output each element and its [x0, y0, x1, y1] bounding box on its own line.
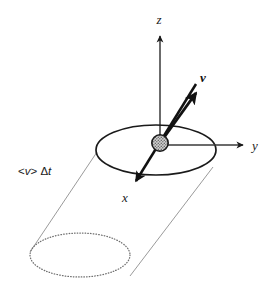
- length-label-delta: Δ: [37, 165, 48, 177]
- x-axis-label: x: [121, 190, 128, 205]
- length-label-time: t: [48, 165, 52, 177]
- velocity-vector-label: v: [200, 70, 206, 85]
- diagram-canvas: z y x v <v> Δt: [0, 0, 274, 296]
- particle-sphere: [152, 135, 168, 151]
- cylinder-far-face-ellipse: [30, 233, 130, 277]
- z-axis-label: z: [155, 12, 161, 27]
- cylinder-length-label: <v> Δt: [18, 165, 52, 177]
- physics-diagram-figure: z y x v <v> Δt: [0, 0, 274, 296]
- velocity-vector-arrow: [160, 93, 196, 143]
- cylinder-edge-right: [130, 167, 213, 276]
- y-axis-label: y: [250, 138, 258, 153]
